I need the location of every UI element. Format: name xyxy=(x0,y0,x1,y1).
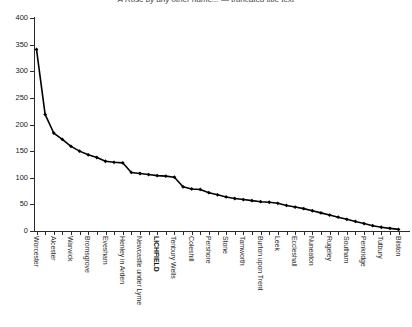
data-point xyxy=(310,209,314,213)
data-point xyxy=(233,197,237,201)
data-point xyxy=(354,220,358,224)
data-point xyxy=(164,174,168,178)
data-point xyxy=(328,213,332,217)
data-point xyxy=(112,160,116,164)
data-point xyxy=(319,211,323,215)
data-point xyxy=(155,174,159,178)
data-point xyxy=(147,173,151,177)
data-point xyxy=(224,195,228,199)
data-point xyxy=(345,217,349,221)
data-point xyxy=(241,198,245,202)
data-point xyxy=(138,172,142,176)
data-point xyxy=(388,226,392,230)
data-point xyxy=(371,224,375,228)
data-point xyxy=(285,204,289,208)
data-series xyxy=(0,0,412,327)
data-point xyxy=(276,201,280,205)
data-point xyxy=(362,222,366,226)
data-point xyxy=(379,225,383,229)
data-point xyxy=(267,200,271,204)
data-point xyxy=(302,207,306,211)
series-line xyxy=(37,49,399,229)
data-point xyxy=(35,48,39,52)
data-point xyxy=(336,215,340,219)
series-markers xyxy=(35,48,401,232)
data-point xyxy=(259,200,263,204)
data-point xyxy=(397,228,401,232)
data-point xyxy=(190,187,194,191)
chart-container: A Rose by any other name... — truncated … xyxy=(0,0,412,327)
data-point xyxy=(293,205,297,209)
data-point xyxy=(250,199,254,203)
data-point xyxy=(216,193,220,197)
plot-area: 050100150200250300350400 WorcesterAlcest… xyxy=(0,0,412,327)
